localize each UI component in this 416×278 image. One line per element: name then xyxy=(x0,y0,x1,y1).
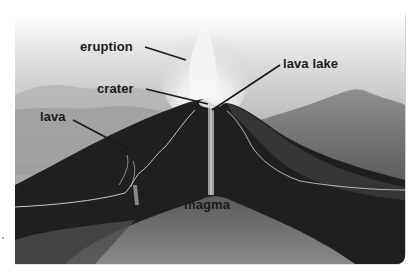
frame-edge-bottom xyxy=(15,264,400,265)
label-crater: crater xyxy=(97,82,134,95)
label-lava-lake: lava lake xyxy=(283,57,338,70)
label-lava: lava xyxy=(40,110,66,123)
scan-artifact xyxy=(2,237,4,239)
crater xyxy=(199,98,223,108)
frame-edge-right xyxy=(405,15,406,255)
label-magma: magma xyxy=(184,198,230,211)
volcano-photo xyxy=(15,15,405,264)
label-eruption: eruption xyxy=(80,40,133,53)
volcano-illustration xyxy=(15,15,405,264)
